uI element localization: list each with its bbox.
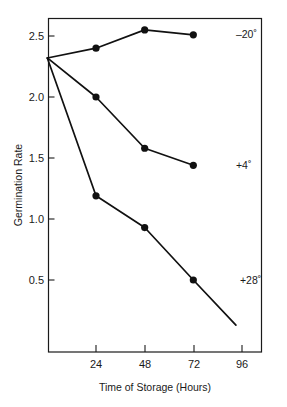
x-tick-label-96: 96	[236, 358, 248, 370]
x-axis-title: Time of Storage (Hours)	[99, 381, 211, 393]
y-tick-label-1-0: 1.0	[29, 213, 44, 225]
chart-figure: 2.5 2.0 1.5 1.0 0.5 24 48 72 96 Time of …	[0, 0, 287, 407]
y-tick-label-2-0: 2.0	[29, 91, 44, 103]
y-axis-title: Germination Rate	[12, 144, 24, 226]
data-point	[92, 192, 99, 199]
data-point	[92, 93, 99, 100]
data-point	[190, 276, 197, 283]
data-point	[190, 162, 197, 169]
data-point	[190, 31, 197, 38]
y-tick-label-1-5: 1.5	[29, 152, 44, 164]
y-tick-label-2-5: 2.5	[29, 30, 44, 42]
series-label-minus-20: –20˚	[236, 28, 257, 40]
x-tick-label-24: 24	[90, 358, 102, 370]
x-tick-label-48: 48	[139, 358, 151, 370]
data-point	[141, 26, 148, 33]
series-label-plus-4: +4˚	[236, 159, 251, 171]
y-tick-label-0-5: 0.5	[29, 274, 44, 286]
data-point	[141, 224, 148, 231]
data-point	[92, 45, 99, 52]
germination-rate-line-chart: 2.5 2.0 1.5 1.0 0.5 24 48 72 96 Time of …	[0, 0, 287, 407]
data-point	[141, 145, 148, 152]
chart-background	[0, 0, 287, 407]
x-tick-label-72: 72	[188, 358, 200, 370]
series-label-plus-28: +28˚	[240, 274, 261, 286]
